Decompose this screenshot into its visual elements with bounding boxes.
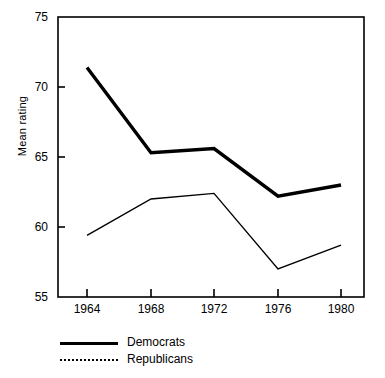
legend-item-republicans: Republicans — [60, 351, 320, 368]
legend-label: Republicans — [127, 353, 193, 366]
x-tick-label: 1964 — [62, 303, 112, 315]
plot-area — [0, 0, 385, 378]
chart-legend: Democrats Republicans — [60, 334, 320, 368]
y-axis-ticks — [58, 87, 65, 227]
x-tick-label: 1968 — [126, 303, 176, 315]
chart-figure: Mean rating 75 70 65 60 55 1964 — [0, 0, 385, 378]
x-axis-tick-labels: 1964 1968 1972 1976 1980 — [0, 303, 385, 319]
solid-line-swatch — [60, 338, 118, 348]
series-line-democrats — [87, 67, 341, 196]
x-tick-label: 1972 — [189, 303, 239, 315]
x-axis-ticks — [87, 289, 341, 297]
series-line-republicans — [87, 193, 341, 269]
legend-item-democrats: Democrats — [60, 334, 320, 351]
legend-label: Democrats — [127, 336, 185, 349]
x-tick-label: 1980 — [316, 303, 366, 315]
dotted-line-swatch — [60, 355, 118, 365]
x-tick-label: 1976 — [253, 303, 303, 315]
plot-frame — [58, 17, 364, 297]
